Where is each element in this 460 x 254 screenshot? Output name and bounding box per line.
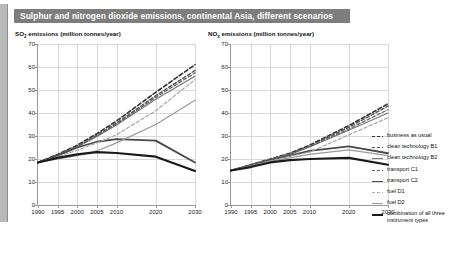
- y-axis-tick-label: 40: [28, 110, 35, 116]
- legend-item[interactable]: business as usual: [372, 132, 458, 140]
- x-tick-mark: [38, 205, 39, 208]
- nox-panel-title: NOx emissions (million tonnes/year): [208, 30, 314, 39]
- legend-swatch-icon: [372, 188, 383, 196]
- x-axis-tick-label: 2010: [303, 209, 316, 215]
- so2-title-main: SO: [15, 30, 24, 37]
- legend-swatch-icon: [372, 166, 383, 174]
- x-axis-tick-label: 2030: [188, 209, 201, 215]
- y-axis-tick-label: 50: [28, 87, 35, 93]
- x-tick-mark: [156, 205, 157, 208]
- so2-plot-area: 0102030405060701990199520002005201020202…: [37, 44, 195, 206]
- legend-swatch-icon: [372, 132, 383, 140]
- legend-item-label: clean technology B2: [387, 154, 437, 161]
- y-axis-tick-label: 70: [221, 41, 228, 47]
- x-axis-tick-label: 2000: [71, 209, 84, 215]
- x-tick-mark: [270, 205, 271, 208]
- legend-swatch-icon: [372, 143, 383, 151]
- x-tick-mark: [77, 205, 78, 208]
- so2-panel-title: SO2 emissions (million tonnes/year): [15, 30, 121, 39]
- legend-item[interactable]: combination of all three instrument type…: [372, 210, 458, 223]
- x-axis-tick-label: 1995: [244, 209, 257, 215]
- chart-legend: business as usualclean technology B1clea…: [372, 132, 458, 227]
- legend-swatch-icon: [372, 154, 383, 162]
- y-axis-tick-label: 20: [28, 156, 35, 162]
- figure-title-band: Sulphur and nitrogen dioxide emissions, …: [14, 9, 350, 23]
- x-tick-mark: [97, 205, 98, 208]
- legend-swatch-icon: [372, 177, 383, 185]
- legend-item[interactable]: fuel D2: [372, 199, 458, 207]
- x-tick-mark: [251, 205, 252, 208]
- series-line: [38, 65, 195, 163]
- y-axis-tick-label: 70: [28, 41, 35, 47]
- legend-item-label: transport C1: [387, 166, 418, 173]
- y-axis-tick-label: 30: [28, 133, 35, 139]
- series-layer: [231, 44, 388, 205]
- legend-item-label: clean technology B1: [387, 143, 437, 150]
- x-axis-tick-label: 1990: [224, 209, 237, 215]
- legend-swatch-icon: [372, 210, 383, 218]
- figure-root: Sulphur and nitrogen dioxide emissions, …: [0, 0, 460, 254]
- so2-chart-panel: 0102030405060701990199520002005201020202…: [15, 44, 195, 224]
- y-axis-tick-label: 0: [32, 202, 35, 208]
- y-axis-tick-label: 30: [221, 133, 228, 139]
- legend-item[interactable]: clean technology B2: [372, 154, 458, 162]
- legend-swatch-icon: [372, 199, 383, 207]
- legend-item-label: fuel D1: [387, 188, 405, 195]
- legend-item-label: fuel D2: [387, 199, 405, 206]
- nox-title-rest: emissions (million tonnes/year): [220, 30, 314, 37]
- x-tick-mark: [58, 205, 59, 208]
- legend-item[interactable]: transport C2: [372, 177, 458, 185]
- x-axis-tick-label: 1990: [31, 209, 44, 215]
- x-tick-mark: [290, 205, 291, 208]
- y-axis-tick-label: 60: [221, 64, 228, 70]
- legend-item-label: combination of all three instrument type…: [387, 210, 458, 223]
- legend-item[interactable]: transport C1: [372, 166, 458, 174]
- legend-item-label: transport C2: [387, 177, 418, 184]
- legend-item[interactable]: fuel D1: [372, 188, 458, 196]
- legend-item-label: business as usual: [387, 132, 431, 139]
- so2-title-rest: emissions (million tonnes/year): [27, 30, 121, 37]
- x-axis-tick-label: 2010: [110, 209, 123, 215]
- y-axis-tick-label: 60: [28, 64, 35, 70]
- y-axis-tick-label: 10: [28, 179, 35, 185]
- legend-item[interactable]: clean technology B1: [372, 143, 458, 151]
- series-layer: [38, 44, 195, 205]
- x-tick-mark: [349, 205, 350, 208]
- y-axis-tick-label: 20: [221, 156, 228, 162]
- nox-chart-panel: 0102030405060701990199520002005201020202…: [208, 44, 388, 224]
- nox-plot-area: 0102030405060701990199520002005201020202…: [230, 44, 388, 206]
- figure-title: Sulphur and nitrogen dioxide emissions, …: [14, 11, 333, 21]
- x-tick-mark: [310, 205, 311, 208]
- y-axis-tick-label: 50: [221, 87, 228, 93]
- page-edge-bar: [0, 4, 8, 222]
- x-tick-mark: [117, 205, 118, 208]
- x-tick-mark: [231, 205, 232, 208]
- x-axis-tick-label: 2005: [90, 209, 103, 215]
- x-axis-tick-label: 2005: [283, 209, 296, 215]
- y-axis-tick-label: 40: [221, 110, 228, 116]
- x-tick-mark: [195, 205, 196, 208]
- x-axis-tick-label: 2020: [342, 209, 355, 215]
- nox-title-main: NO: [208, 30, 217, 37]
- x-axis-tick-label: 2020: [149, 209, 162, 215]
- gridline-vertical: [195, 44, 196, 205]
- x-axis-tick-label: 1995: [51, 209, 64, 215]
- x-axis-tick-label: 2000: [264, 209, 277, 215]
- series-line: [231, 118, 388, 171]
- y-axis-tick-label: 10: [221, 179, 228, 185]
- y-axis-tick-label: 0: [225, 202, 228, 208]
